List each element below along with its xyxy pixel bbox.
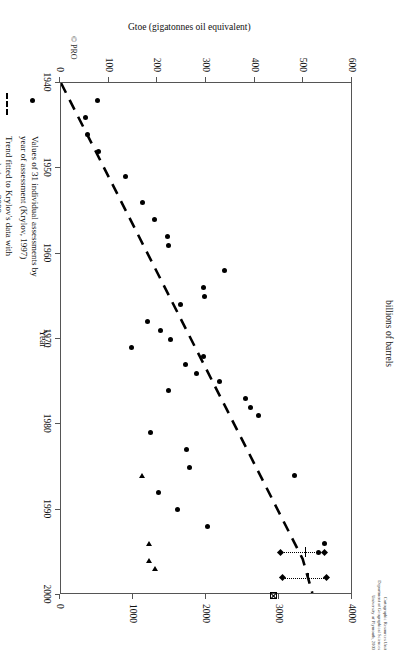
data-point-krylov [178, 302, 183, 307]
y-axis-tick [351, 77, 352, 82]
y-axis-tick [108, 77, 109, 82]
data-point-krylov [183, 362, 188, 367]
data-point-krylov [194, 371, 199, 376]
data-point-krylov [152, 217, 157, 222]
y-axis-tick-label: 200 [152, 58, 162, 72]
x-axis-tick [55, 338, 60, 339]
legend-symbol-dashed-line [0, 90, 14, 136]
shell-range-midpoint [305, 547, 306, 557]
data-point-krylov [148, 430, 153, 435]
data-point-flat-earthers [146, 541, 152, 546]
secondary-axis-tick [278, 594, 279, 599]
y-axis-tick-label: 0 [55, 67, 65, 72]
secondary-axis-tick-label: 3000 [274, 604, 284, 623]
data-point-krylov [158, 328, 163, 333]
data-point-krylov [83, 115, 88, 120]
x-axis-tick-label: 2000 [42, 585, 52, 604]
data-point-flat-earthers [139, 473, 145, 478]
secondary-axis-tick-label: 4000 [347, 604, 357, 623]
legend-item-label: Values of 31 individual assessments by y… [18, 136, 40, 277]
y-axis-tick-label: 500 [298, 58, 308, 72]
data-point-flat-earthers [152, 566, 158, 571]
shell-range-midpoint [308, 573, 309, 583]
data-point-krylov [292, 473, 297, 478]
shell-range-endpoint [323, 574, 330, 581]
y-axis-tick [302, 77, 303, 82]
dashed-line-icon [6, 93, 8, 115]
data-point-krylov [168, 337, 173, 342]
data-point-krylov [201, 354, 206, 359]
data-point-krylov [222, 268, 227, 273]
x-axis-tick-label: 1990 [42, 499, 52, 518]
x-axis-tick [55, 423, 60, 424]
shell-range-endpoint [321, 549, 328, 556]
y-axis-tick-label: 100 [104, 58, 114, 72]
data-point-krylov [322, 541, 327, 546]
shell-range-line [280, 552, 324, 553]
y-axis-tick [59, 77, 60, 82]
y-axis-tick-label: 400 [250, 58, 260, 72]
data-point-krylov [156, 490, 161, 495]
copyright-text: © PRO [69, 36, 78, 60]
y-axis-title: Gtoe (gigatonnes oil equivalent) [128, 22, 251, 32]
secondary-axis-tick-label: 2000 [201, 604, 211, 623]
secondary-axis-tick [59, 594, 60, 599]
data-point-krylov [184, 447, 189, 452]
shell-range-line [283, 578, 327, 579]
data-point-krylov [187, 465, 192, 470]
secondary-axis-title: billions of barrels [384, 300, 394, 367]
y-axis-tick-label: 300 [201, 58, 211, 72]
x-axis-tick [55, 509, 60, 510]
x-axis-tick-label: 1970 [42, 329, 52, 348]
data-point-krylov [167, 243, 172, 248]
x-axis-tick-label: 1980 [42, 414, 52, 433]
data-point-flat-earthers [146, 558, 152, 563]
y-axis-tick [254, 77, 255, 82]
data-point-krylov [140, 200, 145, 205]
data-point-krylov [205, 524, 210, 529]
trend-line [61, 83, 312, 593]
data-point-krylov [243, 396, 248, 401]
secondary-axis-tick [205, 594, 206, 599]
data-point-krylov [201, 285, 206, 290]
x-axis-tick [55, 82, 60, 83]
y-axis-tick [205, 77, 206, 82]
shell-range-endpoint [277, 549, 284, 556]
legend-item: Values of 31 individual assessments by y… [18, 90, 40, 277]
data-point-krylov [217, 379, 222, 384]
secondary-axis-tick-label: 0 [55, 604, 65, 609]
legend-item: Trend fitted to Krylov's data with extra… [0, 90, 14, 256]
secondary-axis-tick-label: 1000 [128, 604, 138, 623]
data-point-krylov [248, 405, 253, 410]
y-axis-tick [156, 77, 157, 82]
y-axis-tick-label: 600 [347, 58, 357, 72]
plot-overlay [61, 83, 351, 593]
data-point-krylov [85, 132, 90, 137]
data-point-krylov [123, 174, 128, 179]
x-axis-tick-label: 1950 [42, 158, 52, 177]
data-point-krylov [256, 413, 261, 418]
x-axis-tick-label: 1960 [42, 243, 52, 262]
x-axis-tick [55, 167, 60, 168]
legend-symbol-filled-circle [26, 90, 40, 136]
plot-area [60, 82, 352, 594]
x-axis-tick-label: 1940 [42, 73, 52, 92]
data-point-krylov [165, 234, 170, 239]
x-axis-tick [55, 253, 60, 254]
data-point-krylov [95, 98, 100, 103]
data-point-usgs [270, 592, 277, 599]
rotated-page-wrapper: billions of barrels Year Gtoe (gigatonne… [0, 0, 408, 666]
data-point-krylov [175, 507, 180, 512]
secondary-axis-tick [351, 594, 352, 599]
filled-circle-icon [31, 98, 36, 103]
chart-figure: billions of barrels Year Gtoe (gigatonne… [0, 0, 408, 666]
data-point-krylov [129, 345, 134, 350]
shell-range-endpoint [279, 574, 286, 581]
secondary-axis-tick [132, 594, 133, 599]
data-point-krylov [166, 388, 171, 393]
credit-text: Cartographic Resources Unit Department o… [370, 470, 388, 650]
legend-item-label: Trend fitted to Krylov's data with extra… [0, 136, 14, 256]
data-point-krylov [202, 294, 207, 299]
data-point-krylov [96, 149, 101, 154]
data-point-krylov [145, 319, 150, 324]
